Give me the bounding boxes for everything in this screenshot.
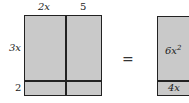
grid-horizontal-divider: [24, 80, 102, 82]
side-label-2: 2: [15, 83, 21, 93]
term-exponent: 2: [177, 44, 181, 52]
term-4x: 4x: [168, 83, 180, 93]
top-label-2x: 2x: [38, 2, 50, 12]
term-coef: 6x: [165, 45, 177, 56]
grid-vertical-divider: [65, 15, 67, 96]
equals-sign: =: [122, 52, 134, 66]
top-label-5: 5: [80, 2, 86, 12]
area-model-grid: [24, 15, 102, 96]
side-label-3x: 3x: [9, 43, 21, 53]
term-6x-squared: 6x2: [165, 46, 181, 56]
